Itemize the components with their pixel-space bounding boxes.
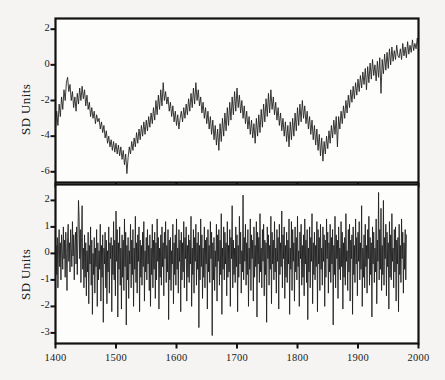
x-tick-label: 2000 <box>399 352 439 363</box>
y-tick-label: -6 <box>28 165 50 176</box>
x-tick-label: 1600 <box>157 352 197 363</box>
y-tick-label: -2 <box>28 299 50 310</box>
y-tick-label: 0 <box>28 246 50 257</box>
y-tick-label: -1 <box>28 273 50 284</box>
figure-root: SD Units SD Units 20-2-4-6210-1-2-314001… <box>0 0 445 380</box>
y-tick-label: -4 <box>28 129 50 140</box>
x-tick-label: 1400 <box>36 352 76 363</box>
y-tick-label: 1 <box>28 220 50 231</box>
x-tick-label: 1900 <box>338 352 378 363</box>
x-tick-label: 1500 <box>96 352 136 363</box>
chart-canvas <box>0 0 445 380</box>
x-tick-label: 1700 <box>217 352 257 363</box>
y-tick-label: -2 <box>28 94 50 105</box>
y-tick-label: 2 <box>28 22 50 33</box>
y-tick-label: 0 <box>28 58 50 69</box>
y-tick-label: 2 <box>28 193 50 204</box>
y-tick-label: -3 <box>28 326 50 337</box>
x-tick-label: 1800 <box>278 352 318 363</box>
